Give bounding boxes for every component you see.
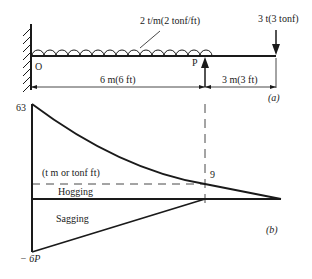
span1-label: 6 m(6 ft) [100, 74, 136, 86]
wall-hatching [23, 28, 31, 92]
point-load-arrow-icon [272, 44, 280, 55]
point-o-label: O [35, 61, 42, 72]
prop-reaction-arrow-icon [201, 57, 209, 68]
sagging-line [32, 199, 205, 252]
units-label: (t m or tonf ft) [42, 167, 100, 179]
hogging-label: Hogging [58, 186, 93, 197]
span2-label: 3 m(3 ft) [222, 74, 258, 86]
p-value-label: 9 [210, 169, 215, 180]
caption-a: (a) [268, 92, 280, 104]
bottom-value-label: − 6P [20, 253, 40, 264]
point-p-label: P [192, 57, 198, 68]
beam-diagram-figure: 2 t/m(2 tonf/ft) 3 t(3 tonf) O P 6 m(6 f… [0, 0, 312, 279]
sagging-label: Sagging [56, 213, 89, 224]
dim-arrow-icon [270, 85, 276, 89]
udl-label: 2 t/m(2 tonf/ft) [140, 15, 200, 27]
top-value-label: 63 [16, 102, 26, 113]
udl-leader-line [140, 31, 160, 48]
hogging-curve [32, 104, 281, 199]
dim-arrow-icon [205, 85, 211, 89]
caption-b: (b) [266, 224, 278, 236]
point-load-label: 3 t(3 tonf) [258, 13, 299, 25]
dim-arrow-icon [199, 85, 205, 89]
